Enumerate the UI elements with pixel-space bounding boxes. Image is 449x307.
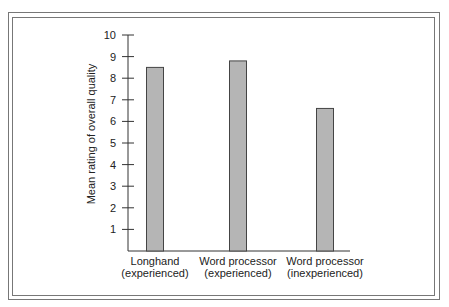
y-tick-label: 10 [104,29,116,41]
bar [317,108,334,251]
y-tick-label: 6 [110,115,116,127]
y-tick-label: 1 [110,223,116,235]
x-category-label: (experienced) [121,267,188,279]
y-tick-label: 2 [110,202,116,214]
x-category-label: Word processor [286,255,364,267]
y-tick-label: 7 [110,94,116,106]
bar-chart: 12345678910Mean rating of overall qualit… [0,0,449,307]
y-tick-label: 4 [110,159,116,171]
y-axis-title: Mean rating of overall quality [85,63,97,204]
y-tick-label: 9 [110,51,116,63]
x-category-label: Longhand [131,255,180,267]
y-tick-label: 3 [110,180,116,192]
x-category-label: Word processor [199,255,277,267]
bar [230,61,247,251]
bar [147,67,164,251]
y-tick-label: 5 [110,137,116,149]
y-tick-label: 8 [110,72,116,84]
x-category-label: (inexperienced) [287,267,363,279]
x-category-label: (experienced) [204,267,271,279]
